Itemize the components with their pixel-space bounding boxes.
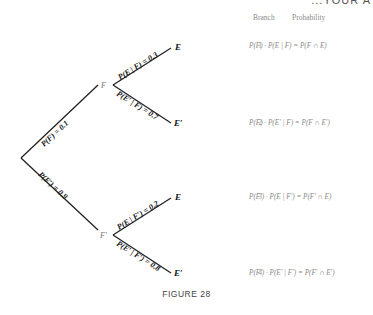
branch-probability-text-3: P(F′) · P(E | F′) = P(F′ ∩ E) bbox=[249, 193, 331, 201]
edge-label-eprime-given-fprime: P(E′ | F′) = 0.8 bbox=[115, 239, 162, 273]
edge-label-pfprime: P(F′) = 0.9 bbox=[37, 170, 70, 201]
node-fprime: F′ bbox=[99, 231, 107, 240]
edge-label-e-given-f: P(E | F) = 0.3 bbox=[116, 50, 159, 82]
edge-label-eprime-given-f: P(E′ | F) = 0.7 bbox=[115, 89, 161, 122]
leaf-e-3: E bbox=[174, 192, 181, 202]
node-f: F bbox=[100, 81, 106, 90]
leaf-eprime-2: E′ bbox=[173, 118, 183, 128]
figure-caption: FIGURE 28 bbox=[0, 289, 373, 299]
leaf-e-1: E bbox=[174, 42, 181, 52]
branch-probability-text-2: P(F) · P(E′ | F) = P(F ∩ E′) bbox=[249, 119, 330, 127]
leaf-eprime-4: E′ bbox=[173, 268, 183, 278]
branch-probability-text-1: P(F) · P(E | F) = P(F ∩ E) bbox=[249, 42, 327, 50]
edge-label-pf: P(F) = 0.1 bbox=[39, 119, 70, 149]
edge-root-to-f bbox=[21, 85, 98, 158]
edge-label-e-given-fprime: P(E | F′) = 0.2 bbox=[115, 199, 160, 232]
branch-probability-text-4: P(F′) · P(E′ | F′) = P(F′ ∩ E′) bbox=[249, 269, 335, 277]
